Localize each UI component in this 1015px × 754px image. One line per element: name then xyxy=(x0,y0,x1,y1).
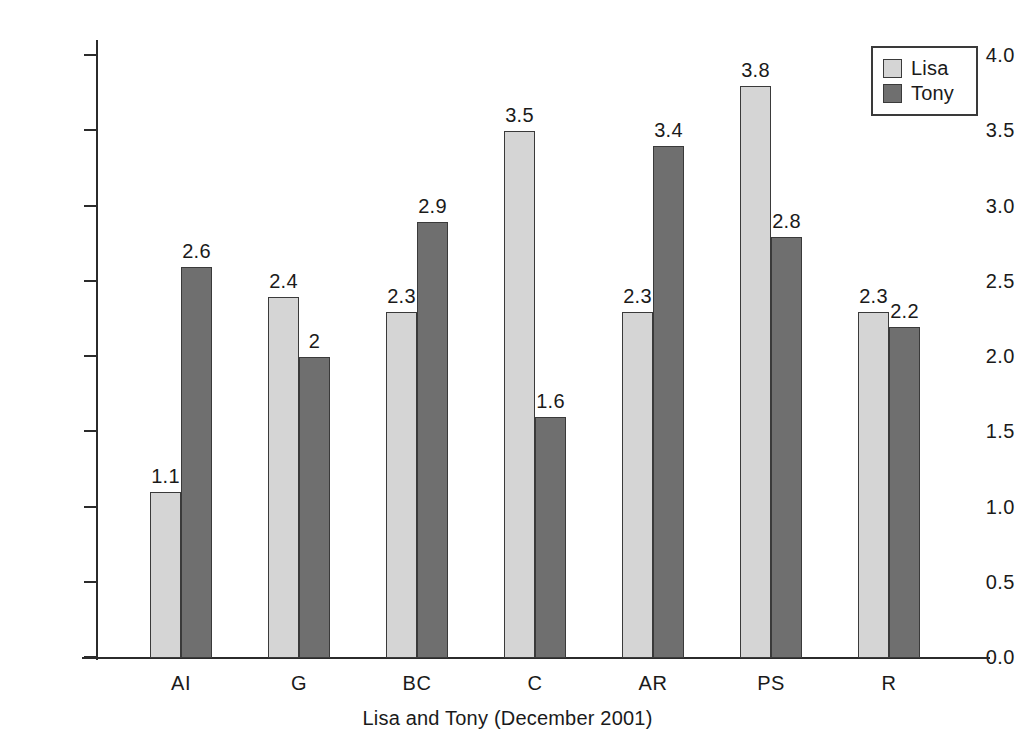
bar-chart: 0.00.51.01.52.02.53.03.54.0 1.12.62.422.… xyxy=(0,0,1015,754)
x-category-label-bc: BC xyxy=(357,672,477,695)
x-category-label-r: R xyxy=(829,672,949,695)
x-category-label-g: G xyxy=(239,672,359,695)
bar-group: 1.12.6 xyxy=(150,55,212,658)
x-category-label-ar: AR xyxy=(593,672,713,695)
x-axis-title: Lisa and Tony (December 2001) xyxy=(0,707,1015,730)
plot-area: 1.12.62.422.32.93.51.62.33.43.82.82.32.2 xyxy=(96,55,990,658)
bar-tony-ar[interactable]: 3.4 xyxy=(653,146,684,658)
bar-value-label: 2.6 xyxy=(182,240,211,263)
bar-lisa-r[interactable]: 2.3 xyxy=(858,312,889,658)
bar-tony-ai[interactable]: 2.6 xyxy=(181,267,212,658)
bar-lisa-g[interactable]: 2.4 xyxy=(268,297,299,658)
bar-lisa-c[interactable]: 3.5 xyxy=(504,131,535,658)
bar-group: 2.32.9 xyxy=(386,55,448,658)
bar-lisa-ai[interactable]: 1.1 xyxy=(150,492,181,658)
bar-tony-g[interactable]: 2 xyxy=(299,357,330,658)
legend: Lisa Tony xyxy=(871,46,978,116)
bar-value-label: 2.3 xyxy=(623,285,652,308)
bar-group: 2.42 xyxy=(268,55,330,658)
bar-value-label: 2.8 xyxy=(772,210,801,233)
bar-group: 3.82.8 xyxy=(740,55,802,658)
bar-tony-r[interactable]: 2.2 xyxy=(889,327,920,658)
legend-swatch-lisa-icon xyxy=(883,59,902,78)
bar-value-label: 3.4 xyxy=(654,119,683,142)
x-category-label-c: C xyxy=(475,672,595,695)
bar-value-label: 3.5 xyxy=(505,104,534,127)
bar-tony-bc[interactable]: 2.9 xyxy=(417,222,448,658)
legend-label-lisa: Lisa xyxy=(911,57,949,80)
bar-tony-ps[interactable]: 2.8 xyxy=(771,237,802,658)
legend-label-tony: Tony xyxy=(911,82,954,105)
bar-value-label: 2.3 xyxy=(387,285,416,308)
bar-value-label: 3.8 xyxy=(741,59,770,82)
x-category-label-ps: PS xyxy=(711,672,831,695)
x-category-label-ai: AI xyxy=(121,672,241,695)
bar-value-label: 2.9 xyxy=(418,195,447,218)
bar-value-label: 2.3 xyxy=(859,285,888,308)
bar-lisa-ar[interactable]: 2.3 xyxy=(622,312,653,658)
bar-group: 2.33.4 xyxy=(622,55,684,658)
bar-value-label: 1.1 xyxy=(151,465,180,488)
bar-value-label: 2.2 xyxy=(890,300,919,323)
bar-tony-c[interactable]: 1.6 xyxy=(535,417,566,658)
bar-value-label: 1.6 xyxy=(536,390,565,413)
legend-item-tony[interactable]: Tony xyxy=(883,81,966,106)
bar-value-label: 2 xyxy=(309,330,320,353)
legend-swatch-tony-icon xyxy=(883,84,902,103)
bar-lisa-ps[interactable]: 3.8 xyxy=(740,86,771,658)
bar-lisa-bc[interactable]: 2.3 xyxy=(386,312,417,658)
legend-item-lisa[interactable]: Lisa xyxy=(883,56,966,81)
bar-value-label: 2.4 xyxy=(269,270,298,293)
bar-group: 3.51.6 xyxy=(504,55,566,658)
bar-group: 2.32.2 xyxy=(858,55,920,658)
